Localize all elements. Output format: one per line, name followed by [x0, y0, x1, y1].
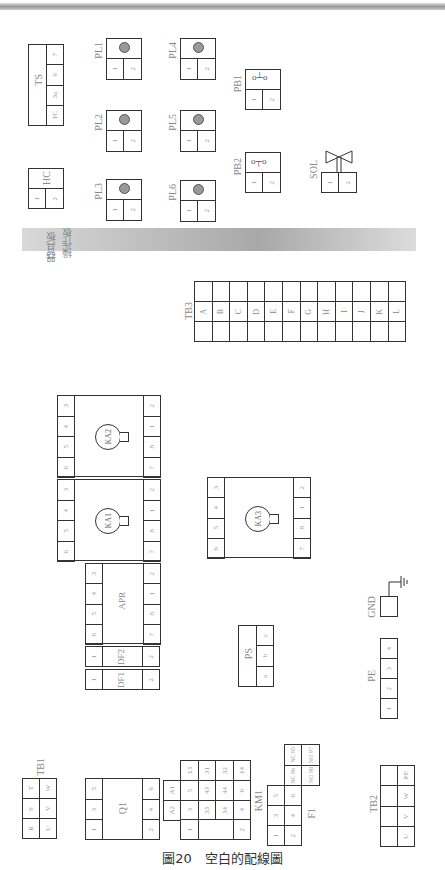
tb3-cell: [317, 281, 336, 302]
tb3-terminal: F: [282, 301, 301, 322]
tb3-terminal: E: [264, 301, 283, 322]
ts-label: TS: [33, 74, 44, 86]
ka3-pin: 6: [207, 538, 225, 559]
tb3-cell: [229, 321, 248, 342]
ground-icon: [387, 574, 409, 598]
ka1-pin: 6: [57, 541, 75, 563]
tb3-cell: [247, 281, 266, 302]
ka2-pin: 4: [57, 416, 75, 438]
pl2-label: PL2: [93, 114, 104, 131]
tb3-terminal: B: [212, 301, 231, 322]
tb3-cell: [282, 321, 301, 342]
relay-coil-icon: KA1: [95, 508, 121, 534]
ps-label: PS: [243, 648, 254, 659]
tb3-terminal: I: [335, 301, 354, 322]
apr-pin: 8: [143, 604, 161, 625]
tb3-cell: [300, 321, 319, 342]
hc-pin: 2: [45, 188, 64, 209]
ts-pin: 1C: [46, 105, 64, 126]
tb3-cell: [317, 321, 336, 342]
pb2-label: PB2: [232, 158, 243, 175]
tb3-cell: [194, 281, 213, 302]
ka1-pin: 3: [57, 479, 75, 501]
tb3-terminal: L: [388, 301, 407, 322]
pe-label: PE: [366, 670, 377, 682]
ts-pin: 3a: [46, 85, 64, 106]
apr-pin: 2: [143, 563, 161, 584]
ka3-pin: 5: [207, 518, 225, 539]
ts-pin: 7: [46, 44, 64, 65]
tb3-label: TB3: [183, 302, 194, 320]
tb3-terminal: G: [300, 301, 319, 322]
pl6-label: PL6: [167, 184, 178, 201]
pl3-label: PL3: [93, 183, 104, 200]
tb3-cell: [300, 281, 319, 302]
header-rule: [0, 3, 445, 10]
ka2-pin: 7: [143, 457, 161, 479]
ka3-pin: 4: [207, 497, 225, 518]
pl5-label: PL5: [167, 114, 178, 131]
device-panel-label: 器具板: [44, 232, 59, 262]
tb3-cell: [229, 281, 248, 302]
tb3-cell: [388, 281, 407, 302]
pl1-label: PL1: [93, 42, 104, 59]
tb3-terminal: D: [247, 301, 266, 322]
apr-pin: 6: [85, 624, 103, 645]
df2-label: DF2: [116, 649, 126, 665]
tb3-cell: [212, 321, 231, 342]
hc-label: HC: [41, 171, 52, 185]
tb3-cell: [264, 321, 283, 342]
tb3-cell: [370, 321, 389, 342]
tb3-cell: [352, 281, 371, 302]
ka2-pin: 3: [57, 395, 75, 417]
km1-label: KM1: [253, 790, 264, 811]
relay-coil-icon: KA3: [245, 506, 271, 532]
tb3-cell: [247, 321, 266, 342]
q1-label: Q1: [117, 802, 128, 814]
ka3-pin: 8: [293, 518, 311, 539]
df1-label: DF1: [116, 672, 126, 688]
figure-caption: 圖20 空白的配線圖: [0, 848, 445, 867]
tb3-cell: [194, 321, 213, 342]
apr-pin: 3: [85, 563, 103, 584]
ka2-pin: 8: [143, 436, 161, 458]
f1-label: F1: [306, 808, 317, 819]
tb3-terminal: C: [229, 301, 248, 322]
tb3-cell: [335, 281, 354, 302]
apr-pin: 4: [85, 583, 103, 604]
ka1-pin: 2: [143, 479, 161, 501]
tb3-cell: [352, 321, 371, 342]
ka3-pin: 3: [207, 477, 225, 498]
relay-coil-icon: KA2: [95, 424, 121, 450]
pushbutton-nc-icon: o┬o: [251, 156, 266, 166]
apr-pin: 7: [143, 624, 161, 645]
ka2-pin: 6: [57, 457, 75, 479]
tb3-cell: [212, 281, 231, 302]
ka3-pin: 7: [293, 538, 311, 559]
operation-panel-label: 操作板: [60, 228, 75, 258]
ka3-pin: 2: [293, 477, 311, 498]
operation-panel-band: [22, 228, 416, 251]
ka2-pin: 1: [143, 416, 161, 438]
sol-label: SOL: [308, 160, 319, 179]
ka1-pin: 5: [57, 520, 75, 542]
apr-pin: 1: [143, 583, 161, 604]
ka2-pin: 5: [57, 436, 75, 458]
ka1-pin: 4: [57, 500, 75, 522]
tb3-cell: [264, 281, 283, 302]
tb3-terminal: H: [317, 301, 336, 322]
ka3-pin: 1: [293, 497, 311, 518]
ka1-pin: 1: [143, 500, 161, 522]
tb3-cell: [388, 321, 407, 342]
hc-pin: 1: [28, 188, 46, 209]
apr-label: APR: [117, 592, 127, 610]
gnd-label: GND: [366, 596, 377, 618]
ka2-pin: 2: [143, 395, 161, 417]
pushbutton-no-icon: o┴o: [252, 72, 267, 82]
ts-pin: 6: [46, 64, 64, 86]
tb1-label: TB1: [35, 758, 46, 776]
ka1-pin: 8: [143, 520, 161, 542]
tb3-terminal: K: [370, 301, 389, 322]
pb1-label: PB1: [232, 75, 243, 92]
tb3-cell: [335, 321, 354, 342]
